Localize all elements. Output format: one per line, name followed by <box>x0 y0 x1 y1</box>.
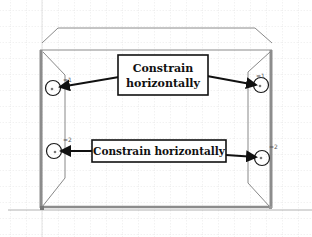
callout-top-line-2: horizontally <box>126 77 200 90</box>
constraint-marker-icon: =1 <box>256 72 265 79</box>
callout-bottom: Constrain horizontally <box>92 140 226 162</box>
corner-point[interactable] <box>269 206 272 209</box>
sketch-canvas[interactable]: =1 =1 =2 =2 Constrain horizontally Const… <box>0 0 312 237</box>
constraint-marker-icon: =2 <box>63 136 72 143</box>
callout-top-line-1: Constrain <box>133 62 193 75</box>
callout-top: Constrain horizontally <box>118 55 208 95</box>
constraint-marker-icon: =1 <box>63 76 72 83</box>
origin-point[interactable] <box>40 206 44 210</box>
constraint-marker-icon: =2 <box>269 143 278 150</box>
callout-bottom-line-1: Constrain horizontally <box>93 145 226 157</box>
